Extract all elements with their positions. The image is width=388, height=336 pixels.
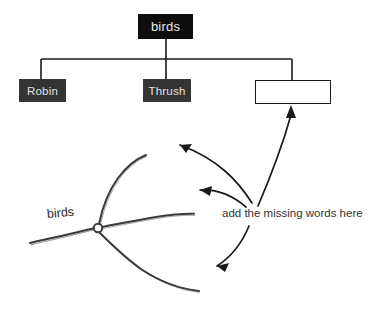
clado-branch-lower xyxy=(99,232,199,291)
node-box-root[interactable]: birds xyxy=(138,14,193,39)
clado-branch-upper-texture xyxy=(101,156,147,224)
cladogram-root-label: birds xyxy=(46,205,74,221)
annotation-arrows xyxy=(180,105,296,272)
instruction-caption: add the missing words here xyxy=(222,207,363,219)
tree-connectors xyxy=(41,39,292,80)
diagram-vector-layer xyxy=(0,0,388,336)
clado-branch-lower-texture xyxy=(100,233,199,292)
node-box-robin[interactable]: Robin xyxy=(19,79,66,102)
clado-main-stem-texture xyxy=(31,230,95,245)
diagram-canvas: birds Robin Thrush birds add the missing… xyxy=(0,0,388,336)
arrow-to-middle-branch-head xyxy=(200,186,212,196)
clado-node-circle xyxy=(94,224,102,232)
cladogram-sketch xyxy=(30,155,199,292)
clado-main-stem xyxy=(30,228,95,243)
arrow-to-lower-branch xyxy=(217,226,249,266)
arrow-to-empty-box-head xyxy=(286,105,296,118)
clado-branch-upper xyxy=(99,155,146,224)
node-box-thrush[interactable]: Thrush xyxy=(143,79,191,102)
arrow-to-upper-branch xyxy=(180,145,252,203)
arrow-to-empty-box xyxy=(258,115,291,206)
node-box-blank-answer[interactable] xyxy=(255,80,331,104)
